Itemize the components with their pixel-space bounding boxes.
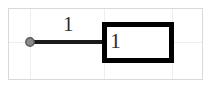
diagram-canvas: 1 1 [0, 0, 212, 89]
terminal-node[interactable] [26, 38, 34, 46]
connection-line-label: 1 [63, 14, 74, 35]
diagram-graphics [0, 0, 212, 89]
block-label: 1 [110, 30, 121, 52]
